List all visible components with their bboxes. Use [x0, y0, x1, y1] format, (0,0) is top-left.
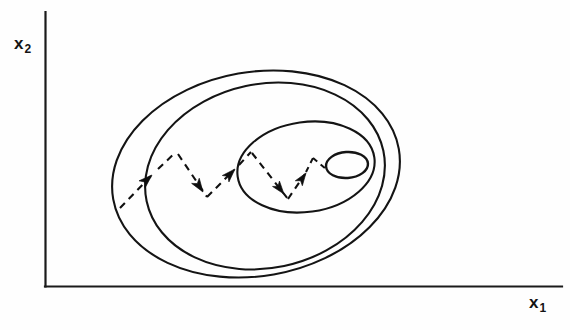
contour-third — [231, 113, 380, 221]
x-axis-label-base: x — [529, 293, 538, 312]
descent-segment-2 — [158, 152, 176, 169]
descent-arrowhead-3 — [222, 166, 238, 182]
y-axis-label-base: x — [14, 34, 23, 53]
contour-innermost — [325, 151, 369, 180]
descent-segment-8 — [306, 158, 313, 172]
diagram-svg — [0, 0, 570, 330]
contour-outer — [95, 48, 416, 299]
descent-arrowhead-2 — [192, 178, 207, 194]
contour-group — [95, 48, 416, 299]
zigzag-descent-path — [120, 152, 326, 208]
x-axis-label: x1 — [529, 293, 545, 313]
x-axis-label-subscript: 1 — [539, 301, 546, 315]
descent-segment-9 — [313, 158, 326, 169]
y-axis-label-subscript: 2 — [24, 42, 31, 56]
figure-canvas: x2 x1 — [0, 0, 570, 330]
y-axis-label: x2 — [14, 34, 30, 54]
